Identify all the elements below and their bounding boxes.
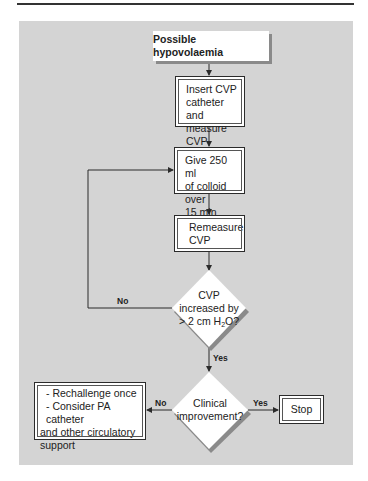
outcome-line: - Consider PA catheter [40,400,139,426]
decision-line: CVP [172,289,246,302]
yes-label-cvp: Yes [213,353,228,363]
yes-label-clinical: Yes [253,398,268,408]
decision-clinical-text: Clinical improvement? [172,397,248,423]
start-label: Possible hypovolaemia [153,33,269,59]
outcome-line: and other circulatory [40,426,139,439]
step-line: measure CVP [186,122,238,148]
stop-label: Stop [291,403,313,416]
step-line: Insert CVP [186,83,238,96]
step-line: CVP [189,234,238,247]
no-label-clinical: No [155,398,166,408]
outcome-escalate: - Rechallenge once - Consider PA cathete… [34,382,146,440]
step-insert-cvp: Insert CVP catheter and measure CVP [175,76,245,127]
step-give-colloid: Give 250 ml of colloid over 15 min [174,147,245,194]
step-line: Remeasure [189,221,238,234]
decision-line: improvement? [172,410,248,423]
step-line: Give 250 ml [185,154,238,180]
decision-cvp-text: CVP increased by > 2 cm H2O? [172,289,246,328]
start-node: Possible hypovolaemia [153,31,269,61]
outcome-line: support [40,439,139,452]
no-label-cvp: No [117,296,128,306]
step-line: of colloid over [185,180,238,206]
decision-line: increased by [172,302,246,315]
outcome-line: - Rechallenge once [40,387,139,400]
step-remeasure-cvp: Remeasure CVP [174,215,245,252]
decision-line: Clinical [172,397,248,410]
decision-line: > 2 cm H2O? [172,315,246,328]
outcome-stop: Stop [279,395,324,424]
step-line: catheter and [186,96,238,122]
